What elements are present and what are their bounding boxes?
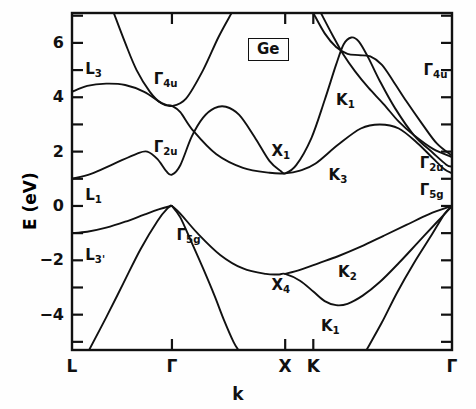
band-annotation-symbol: K <box>321 317 333 335</box>
band-curve <box>72 205 452 305</box>
band-annotation-subscript: 5g <box>186 233 200 244</box>
band-annotation-subscript: 4u <box>163 77 177 88</box>
band-annotation: Γ4u <box>424 63 448 80</box>
x-tick-label: L <box>60 358 84 375</box>
x-axis-label: k <box>0 386 476 403</box>
band-annotation-symbol: L <box>85 246 95 264</box>
band-curve <box>114 13 232 106</box>
band-structure-figure: Ge E (eV) k 6420−2−4 LΓXKΓ L3L1L3'Γ4uΓ2u… <box>0 0 476 409</box>
material-label-box: Ge <box>248 38 289 61</box>
band-annotation-symbol: L <box>85 186 95 204</box>
band-annotation-symbol: X <box>272 276 284 294</box>
band-annotation-subscript: 3 <box>95 68 102 79</box>
y-tick-label: 0 <box>0 198 64 214</box>
x-tick-label: Γ <box>160 358 184 375</box>
band-annotation: K1 <box>321 319 340 336</box>
band-curve <box>285 206 452 274</box>
band-annotation-symbol: K <box>329 166 341 184</box>
band-annotation: Γ5g <box>420 183 444 200</box>
band-annotation: K2 <box>338 265 357 282</box>
band-annotation: Γ4u <box>154 72 178 89</box>
band-curve <box>321 13 452 157</box>
y-tick-label: −2 <box>0 252 64 268</box>
band-annotation: L3' <box>85 248 105 265</box>
frame-rect <box>72 13 452 350</box>
band-annotation-subscript: 4u <box>433 69 447 80</box>
y-tick-label: 4 <box>0 89 64 105</box>
band-annotation: Γ2u <box>154 140 178 157</box>
band-annotation: Γ5g <box>177 228 201 245</box>
band-annotation-symbol: Γ <box>420 181 430 199</box>
band-annotation-symbol: L <box>85 60 95 78</box>
band-annotation-subscript: 1 <box>283 149 290 160</box>
band-annotation: L3 <box>85 62 102 79</box>
band-annotation-subscript: 2u <box>163 145 177 156</box>
band-annotation: X4 <box>272 278 291 295</box>
band-annotation-symbol: Γ <box>154 70 164 88</box>
band-annotation: Γ2u <box>420 156 444 173</box>
band-curve <box>89 206 172 350</box>
band-curves <box>72 13 452 350</box>
band-curve <box>367 206 453 350</box>
x-tick-label: Γ <box>440 358 464 375</box>
band-annotation: K3 <box>329 168 348 185</box>
band-annotation-symbol: Γ <box>424 61 434 79</box>
band-annotation: X1 <box>272 144 291 161</box>
plot-canvas <box>0 0 476 409</box>
band-annotation-symbol: K <box>336 91 348 109</box>
y-tick-label: 6 <box>0 35 64 51</box>
band-annotation-symbol: Γ <box>154 138 164 156</box>
band-annotation-subscript: 3 <box>340 174 347 185</box>
band-annotation: K1 <box>336 93 355 110</box>
band-annotation-subscript: 4 <box>283 284 290 295</box>
y-tick-label: −4 <box>0 307 64 323</box>
band-annotation-symbol: K <box>338 263 350 281</box>
axis-ticks <box>72 13 452 350</box>
band-annotation-subscript: 1 <box>333 324 340 335</box>
band-annotation-subscript: 1 <box>348 99 355 110</box>
band-annotation: L1 <box>85 188 102 205</box>
band-annotation-symbol: X <box>272 142 284 160</box>
material-label-text: Ge <box>257 40 280 58</box>
band-annotation-subscript: 2 <box>350 270 357 281</box>
x-tick-label: X <box>273 358 297 375</box>
band-annotation-subscript: 2u <box>429 161 443 172</box>
y-tick-label: 2 <box>0 144 64 160</box>
band-annotation-subscript: 3' <box>95 254 105 265</box>
band-annotation-symbol: Γ <box>177 226 187 244</box>
band-annotation-subscript: 1 <box>95 194 102 205</box>
x-tick-label: K <box>301 358 325 375</box>
plot-frame <box>72 13 452 350</box>
band-curve <box>72 84 452 174</box>
band-annotation-subscript: 5g <box>429 189 443 200</box>
band-annotation-symbol: Γ <box>420 154 430 172</box>
